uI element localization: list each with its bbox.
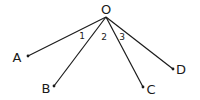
diagram-canvas: O A B C D 1 2 3 bbox=[0, 0, 200, 100]
angle-diagram: O A B C D 1 2 3 bbox=[0, 0, 200, 100]
label-b: B bbox=[42, 81, 51, 96]
label-c: C bbox=[146, 82, 155, 97]
angle-label-2: 2 bbox=[101, 32, 107, 42]
ray-oa bbox=[28, 17, 106, 56]
ray-od bbox=[106, 17, 173, 69]
point-b bbox=[53, 85, 56, 88]
ray-ob bbox=[54, 17, 106, 86]
point-a bbox=[27, 55, 30, 58]
label-d: D bbox=[176, 62, 186, 77]
ray-oc bbox=[106, 17, 143, 87]
point-d bbox=[172, 68, 175, 71]
angle-label-1: 1 bbox=[79, 31, 85, 41]
angle-label-3: 3 bbox=[119, 32, 125, 42]
label-a: A bbox=[13, 50, 22, 65]
label-o: O bbox=[101, 2, 111, 17]
point-c bbox=[142, 86, 145, 89]
